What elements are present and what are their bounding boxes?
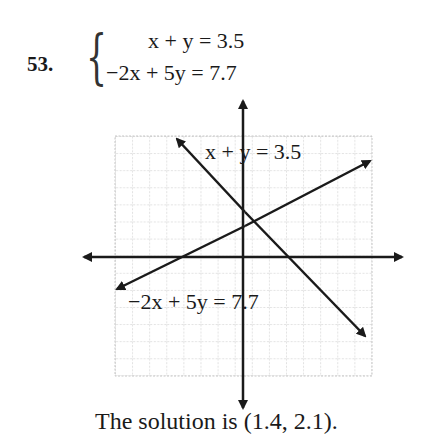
line1-label: x + y = 3.5 [205,139,301,164]
coordinate-graph: x + y = 3.5 −2x + 5y = 7.7 [0,0,422,447]
line2-label: −2x + 5y = 7.7 [128,289,259,314]
solution-text: The solution is (1.4, 2.1). [95,408,338,435]
